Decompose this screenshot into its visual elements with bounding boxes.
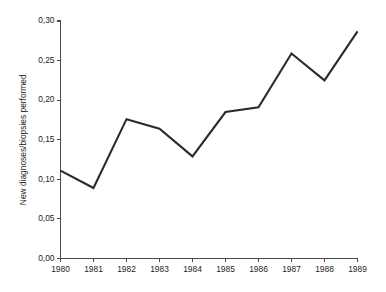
x-tick-label: 1982 — [117, 264, 136, 274]
x-tick-label: 1985 — [216, 264, 235, 274]
y-tick-label: 0,10 — [38, 174, 55, 184]
x-tick-label: 1980 — [51, 264, 70, 274]
y-tick-label: 0,25 — [38, 55, 55, 65]
x-tick-label: 1981 — [84, 264, 103, 274]
axes-group — [61, 20, 358, 259]
chart-canvas: 0,000,050,100,150,200,250,30198019811982… — [0, 0, 386, 292]
x-tick-label: 1986 — [249, 264, 268, 274]
x-tick-label: 1987 — [282, 264, 301, 274]
y-tick-label: 0,30 — [38, 15, 55, 25]
y-axis-title: New diagnoses/biopsies performed — [18, 74, 28, 205]
x-tick-label: 1983 — [150, 264, 169, 274]
line-chart: 0,000,050,100,150,200,250,30198019811982… — [0, 0, 386, 292]
y-tick-label: 0,20 — [38, 94, 55, 104]
x-tick-label: 1984 — [183, 264, 202, 274]
x-tick-label: 1989 — [348, 264, 367, 274]
y-axis-ticks: 0,000,050,100,150,200,250,30 — [38, 15, 60, 263]
x-axis-ticks: 1980198119821983198419851986198719881989 — [51, 259, 367, 274]
y-tick-label: 0,15 — [38, 134, 55, 144]
y-tick-label: 0,05 — [38, 213, 55, 223]
x-tick-label: 1988 — [315, 264, 334, 274]
data-line-series — [61, 31, 358, 188]
y-tick-label: 0,00 — [38, 253, 55, 263]
